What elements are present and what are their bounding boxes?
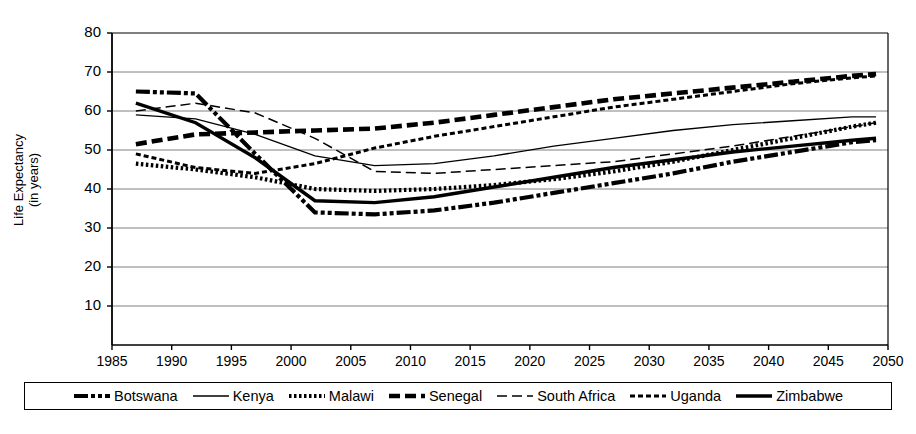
legend-swatch-uganda-icon xyxy=(629,389,667,403)
legend-label: Uganda xyxy=(670,388,721,404)
legend-item-kenya[interactable]: Kenya xyxy=(185,388,281,404)
legend-label: Kenya xyxy=(233,388,274,404)
legend-item-uganda[interactable]: Uganda xyxy=(622,388,728,404)
legend-item-south-africa[interactable]: South Africa xyxy=(489,388,622,404)
legend-swatch-botswana-icon xyxy=(73,389,111,403)
legend-label: South Africa xyxy=(537,388,615,404)
legend-label: Botswana xyxy=(114,388,178,404)
plot-area xyxy=(0,0,916,434)
legend-label: Zimbabwe xyxy=(776,388,843,404)
chart-legend: BotswanaKenyaMalawiSenegalSouth AfricaUg… xyxy=(24,382,892,410)
legend-item-zimbabwe[interactable]: Zimbabwe xyxy=(728,388,850,404)
legend-swatch-zimbabwe-icon xyxy=(735,389,773,403)
legend-swatch-south-africa-icon xyxy=(496,389,534,403)
legend-swatch-kenya-icon xyxy=(192,389,230,403)
legend-label: Senegal xyxy=(429,388,482,404)
legend-item-botswana[interactable]: Botswana xyxy=(66,388,185,404)
legend-item-senegal[interactable]: Senegal xyxy=(381,388,489,404)
legend-swatch-senegal-icon xyxy=(388,389,426,403)
legend-swatch-malawi-icon xyxy=(288,389,326,403)
life-expectancy-line-chart: Life Expectancy (in years) 1020304050607… xyxy=(0,0,916,434)
legend-label: Malawi xyxy=(329,388,374,404)
legend-item-malawi[interactable]: Malawi xyxy=(281,388,381,404)
